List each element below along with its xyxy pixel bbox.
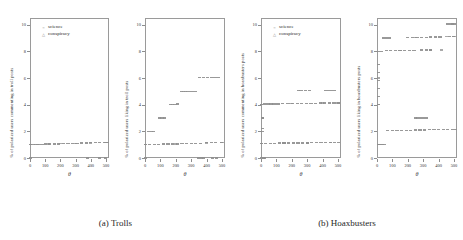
figure-root: 02468100100200300400500θ% of polarized u… xyxy=(0,0,463,240)
data-point-science xyxy=(395,130,398,132)
y-axis-tick-label: 10 xyxy=(13,22,26,27)
x-axis-tick-mark xyxy=(276,159,277,162)
y-axis-tick-mark xyxy=(27,78,30,79)
data-point-conspiracy xyxy=(440,49,443,51)
figure-group-trolls: 02468100100200300400500θ% of polarized u… xyxy=(0,0,231,240)
data-point-science xyxy=(272,103,275,105)
y-axis-tick-mark xyxy=(142,105,145,106)
y-axis-label: % of polarized users liking in troll pos… xyxy=(124,81,129,158)
data-point-science xyxy=(86,157,89,159)
data-point-conspiracy xyxy=(414,37,417,39)
y-axis-tick-label: 4 xyxy=(360,102,373,107)
data-point-science xyxy=(85,142,88,144)
data-point-science xyxy=(53,143,56,145)
panels-trolls: 02468100100200300400500θ% of polarized u… xyxy=(0,6,231,198)
x-axis-tick-label: 500 xyxy=(213,163,231,168)
data-point-science xyxy=(261,131,264,133)
x-axis-tick-mark xyxy=(30,159,31,162)
data-point-science xyxy=(286,103,289,105)
y-axis-tick-label: 10 xyxy=(128,22,141,27)
y-axis-tick-label: 2 xyxy=(13,129,26,134)
y-axis-tick-mark xyxy=(374,105,377,106)
y-axis-label: % of polarized users liking in hoaxbuste… xyxy=(356,66,361,158)
data-point-science xyxy=(333,90,336,92)
x-axis-tick-mark xyxy=(439,159,440,162)
data-point-science xyxy=(310,142,313,144)
data-point-science xyxy=(281,103,284,105)
data-point-science xyxy=(152,131,155,133)
legend-item-label: science xyxy=(48,24,63,29)
y-axis-tick-label: 6 xyxy=(360,76,373,81)
data-point-conspiracy xyxy=(329,142,332,144)
data-point-conspiracy xyxy=(104,142,107,144)
legend-item-label: science xyxy=(279,24,294,29)
data-point-science xyxy=(409,130,412,132)
data-point-science xyxy=(324,142,327,144)
data-point-conspiracy xyxy=(429,49,432,51)
data-point-science xyxy=(314,103,317,105)
data-point-science xyxy=(148,144,151,146)
data-point-science xyxy=(400,130,403,132)
data-point-science xyxy=(202,77,205,79)
x-axis-tick-mark xyxy=(106,159,107,162)
data-point-conspiracy xyxy=(336,102,339,104)
x-axis-tick-mark xyxy=(191,159,192,162)
data-point-conspiracy xyxy=(260,143,263,145)
data-point-science xyxy=(62,143,65,145)
y-axis-tick-label: 8 xyxy=(13,49,26,54)
data-point-science xyxy=(332,102,335,104)
legend-item-label: conspiracy xyxy=(279,31,301,36)
plot-frame xyxy=(30,18,109,158)
data-point-science xyxy=(414,129,417,131)
data-point-science xyxy=(273,143,276,145)
data-point-science xyxy=(428,129,431,131)
y-axis-tick-label: 10 xyxy=(360,22,373,27)
data-point-science xyxy=(98,157,101,159)
y-axis-tick-label: 6 xyxy=(244,76,257,81)
data-point-science xyxy=(315,142,318,144)
data-point-science xyxy=(269,143,272,145)
data-point-science xyxy=(296,103,299,105)
data-point-conspiracy xyxy=(47,143,50,145)
y-axis-tick-label: 6 xyxy=(13,76,26,81)
data-point-science xyxy=(319,142,322,144)
data-point-science xyxy=(377,88,380,90)
x-axis-tick-mark xyxy=(323,159,324,162)
data-point-science xyxy=(403,50,406,52)
caption-b: (b) Hoaxbusters xyxy=(231,218,463,228)
data-point-conspiracy xyxy=(377,77,380,79)
x-axis-tick-mark xyxy=(307,159,308,162)
data-point-science xyxy=(377,80,380,82)
y-axis-tick-mark xyxy=(258,51,261,52)
data-point-conspiracy xyxy=(452,36,455,38)
chart-panel-0: 02468100100200300400500θ% of polarized u… xyxy=(0,6,115,198)
y-axis-tick-mark xyxy=(142,78,145,79)
data-point-science xyxy=(437,129,440,131)
data-point-science xyxy=(98,142,101,144)
data-point-science xyxy=(157,144,160,146)
x-axis-tick-mark xyxy=(160,159,161,162)
data-point-science xyxy=(301,142,304,144)
data-point-conspiracy xyxy=(29,144,32,146)
x-axis-tick-mark xyxy=(392,159,393,162)
data-point-science xyxy=(418,129,421,131)
data-point-science xyxy=(446,129,449,131)
data-point-science xyxy=(389,50,392,52)
data-point-science xyxy=(162,143,165,145)
x-axis-tick-label: 500 xyxy=(329,163,347,168)
x-axis-tick-mark xyxy=(408,159,409,162)
circle-marker-icon: ○ xyxy=(42,26,45,29)
data-point-science xyxy=(386,130,389,132)
y-axis-tick-mark xyxy=(142,51,145,52)
data-point-science xyxy=(190,143,193,145)
y-axis-tick-label: 2 xyxy=(128,129,141,134)
chart-panel-2: 02468100100200300400500θ% of polarized u… xyxy=(231,6,347,198)
data-point-conspiracy xyxy=(290,103,293,105)
data-point-science xyxy=(377,96,380,98)
data-point-science xyxy=(300,103,303,105)
data-point-science xyxy=(377,64,380,66)
data-point-science xyxy=(385,50,388,52)
data-point-science xyxy=(391,130,394,132)
caption-a: (a) Trolls xyxy=(0,218,231,228)
data-point-science xyxy=(206,77,209,79)
